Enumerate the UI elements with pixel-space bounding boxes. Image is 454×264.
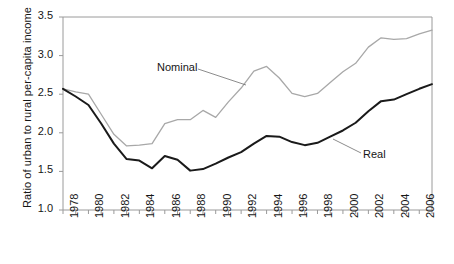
y-tick-label: 3.5	[27, 9, 53, 21]
x-tick-label: 1982	[119, 194, 131, 218]
annotation-leader-nominal	[198, 69, 246, 85]
y-tick-label: 2.5	[27, 86, 53, 98]
x-tick-label: 1978	[68, 194, 80, 218]
x-tick-label: 1980	[93, 194, 105, 218]
x-tick-label: 1990	[221, 194, 233, 218]
chart-figure: Ratio of urban to rural per-capita incom…	[0, 0, 454, 264]
plot-area	[0, 0, 454, 264]
x-tick-label: 1992	[246, 194, 258, 218]
x-tick-label: 1996	[297, 194, 309, 218]
y-tick-label: 2.0	[27, 125, 53, 137]
x-tick-label: 2006	[424, 194, 436, 218]
y-tick-label: 1.0	[27, 202, 53, 214]
x-tick-label: 2004	[399, 194, 411, 218]
x-tick-label: 2002	[373, 194, 385, 218]
x-tick-label: 1994	[272, 194, 284, 218]
x-tick-label: 1986	[170, 194, 182, 218]
series-label-nominal: Nominal	[157, 61, 197, 73]
x-tick-label: 1998	[322, 194, 334, 218]
y-axis-title: Ratio of urban to rural per-capita incom…	[21, 7, 33, 208]
x-tick-label: 2000	[348, 194, 360, 218]
y-tick-label: 3.0	[27, 48, 53, 60]
x-tick-label: 1988	[195, 194, 207, 218]
x-tick-label: 1984	[144, 194, 156, 218]
series-label-real: Real	[363, 148, 386, 160]
y-tick-label: 1.5	[27, 163, 53, 175]
series-line-nominal	[63, 30, 432, 146]
annotation-leader-real	[333, 139, 361, 153]
